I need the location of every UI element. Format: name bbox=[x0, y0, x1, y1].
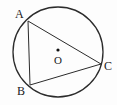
center-point-dot bbox=[56, 48, 59, 51]
vertex-label-c: C bbox=[104, 60, 112, 72]
segment-ab bbox=[28, 21, 30, 85]
segment-ac bbox=[28, 21, 101, 64]
segment-bc bbox=[30, 64, 101, 85]
vertex-label-b: B bbox=[17, 85, 25, 97]
vertex-label-a: A bbox=[15, 8, 24, 20]
center-label-o: O bbox=[54, 55, 62, 66]
geometry-figure: A B C O bbox=[0, 0, 117, 105]
circumscribed-circle bbox=[13, 7, 103, 97]
